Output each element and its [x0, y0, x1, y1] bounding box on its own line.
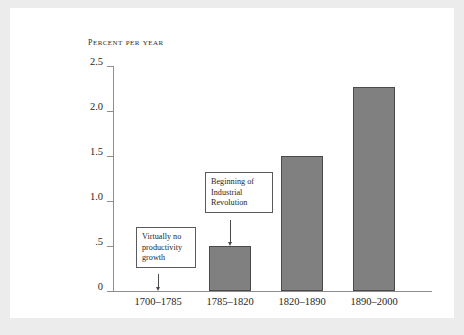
annotation-leader-line [230, 220, 231, 242]
x-axis-label: 1820–1890 [266, 296, 338, 307]
annotation-line: Industrial [211, 188, 267, 199]
y-axis-line [113, 66, 114, 292]
y-axis-tick-label: 0 [63, 286, 103, 287]
y-axis-tick-label: 1.0 [63, 196, 103, 197]
y-axis-tick-label-wrap: 2.0 [59, 111, 103, 112]
y-axis-tick [107, 201, 114, 202]
y-axis-tick-label: 2.0 [63, 106, 103, 107]
x-axis-label: 1785–1820 [194, 296, 266, 307]
chart-annotation: Virtually noproductivitygrowth [136, 227, 196, 268]
annotation-leader-line [158, 274, 159, 287]
y-axis-tick-label-wrap: 0 [59, 291, 103, 292]
chart-title: Percent per year [88, 35, 164, 47]
chart-annotation: Beginning ofIndustrialRevolution [205, 172, 273, 213]
y-axis-tick-label-wrap: 2.5 [59, 66, 103, 67]
y-axis-tick-label-wrap: 1.5 [59, 156, 103, 157]
y-axis-tick [107, 246, 114, 247]
y-axis-tick [107, 156, 114, 157]
annotation-line: Beginning of [211, 177, 267, 188]
annotation-line: Virtually no [142, 232, 190, 243]
figure-panel: Percent per year 2.52.01.51.0.50 1700–17… [10, 8, 454, 318]
y-axis-tick [107, 66, 114, 67]
annotation-line: growth [142, 253, 190, 264]
figure-outer-frame: Percent per year 2.52.01.51.0.50 1700–17… [0, 0, 464, 335]
y-axis-tick-label-wrap: .5 [59, 246, 103, 247]
y-axis-tick-label: .5 [63, 241, 103, 242]
y-axis-tick-label: 1.5 [63, 151, 103, 152]
annotation-line: productivity [142, 243, 190, 254]
x-axis-label: 1700–1785 [122, 296, 194, 307]
x-axis-label: 1890–2000 [338, 296, 410, 307]
bar [281, 156, 323, 291]
annotation-arrow-head-icon [228, 242, 232, 246]
y-axis-tick-label: 2.5 [63, 61, 103, 62]
x-axis-line [113, 291, 432, 292]
annotation-arrow-head-icon [156, 287, 160, 291]
annotation-line: Revolution [211, 198, 267, 209]
y-axis-tick [107, 291, 114, 292]
bar [209, 246, 251, 291]
y-axis-tick [107, 111, 114, 112]
bar [353, 87, 395, 291]
y-axis-tick-label-wrap: 1.0 [59, 201, 103, 202]
